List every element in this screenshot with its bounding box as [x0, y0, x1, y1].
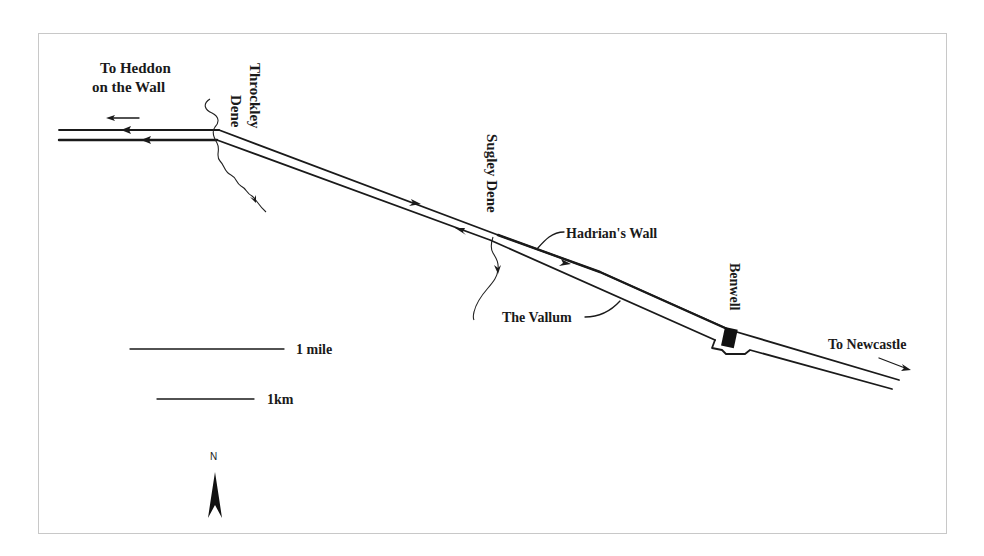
vallum-line	[59, 140, 892, 389]
hadrians-wall-label: Hadrian's Wall	[566, 226, 657, 241]
benwell-fort-marker	[721, 327, 738, 348]
heddon-label-line1: To Heddon	[100, 60, 171, 76]
sugley-dene-stream	[473, 237, 501, 320]
throckley-label-line2: Dene	[228, 95, 244, 128]
heddon-direction-arrow	[106, 115, 139, 121]
route-map: To Heddon on the Wall Throckley Dene Sug…	[0, 0, 984, 556]
heddon-label-line2: on the Wall	[92, 79, 165, 95]
north-arrow-icon	[208, 472, 222, 518]
hadrians-wall-line	[59, 130, 899, 380]
benwell-label: Benwell	[727, 263, 742, 311]
scale-mile-label: 1 mile	[296, 342, 332, 357]
north-arrow-label: N	[210, 451, 217, 462]
newcastle-label: To Newcastle	[828, 337, 906, 352]
north-arrow: N	[208, 451, 222, 518]
sugley-dene-label: Sugley Dene	[484, 134, 500, 213]
newcastle-direction-arrow	[879, 358, 911, 371]
scale-km-label: 1km	[267, 392, 294, 407]
throckley-label-line1: Throckley	[247, 63, 263, 129]
scale-bars: 1 mile 1km	[130, 342, 332, 407]
vallum-label: The Vallum	[502, 310, 572, 325]
direction-arrows	[121, 126, 571, 266]
